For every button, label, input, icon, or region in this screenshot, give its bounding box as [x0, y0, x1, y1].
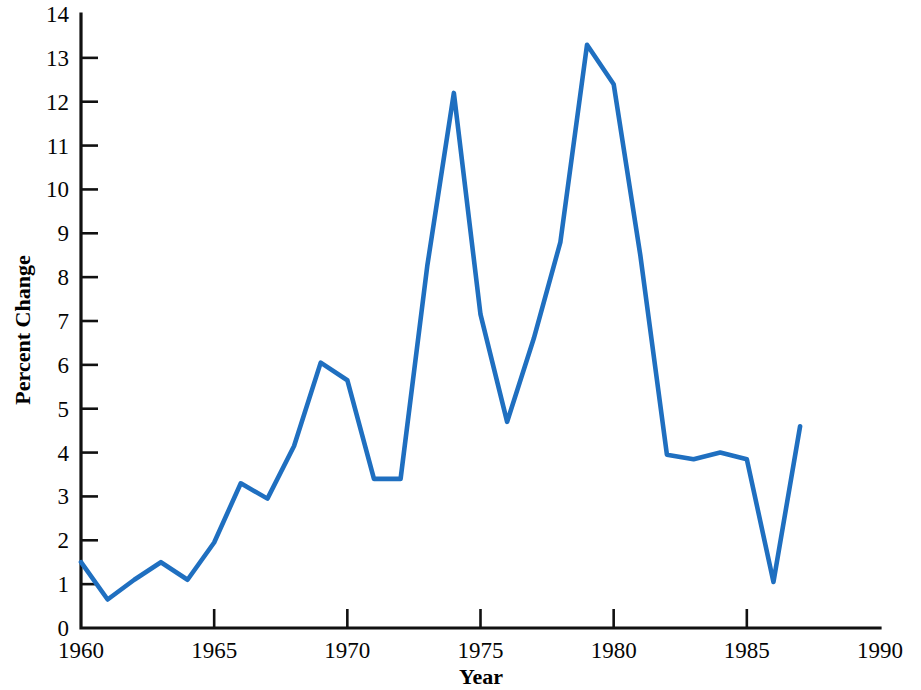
x-axis-tick-marks — [214, 609, 747, 628]
y-axis-tick-label: 5 — [58, 397, 70, 422]
x-axis-tick-labels: 1960196519701975198019851990 — [58, 638, 903, 663]
y-axis-tick-label: 1 — [58, 572, 70, 597]
y-axis-tick-label: 12 — [46, 90, 69, 115]
x-axis-tick-label: 1990 — [857, 638, 903, 663]
chart-figure: 01234567891011121314 1960196519701975198… — [0, 0, 921, 690]
y-axis-tick-label: 7 — [58, 309, 70, 334]
y-axis-tick-label: 8 — [58, 265, 70, 290]
y-axis-tick-labels: 01234567891011121314 — [46, 2, 70, 641]
y-axis-tick-label: 9 — [58, 221, 70, 246]
x-axis-tick-label: 1970 — [324, 638, 370, 663]
x-axis-tick-label: 1960 — [58, 638, 104, 663]
y-axis-tick-label: 14 — [46, 2, 70, 27]
y-axis-tick-label: 4 — [58, 441, 70, 466]
y-axis-tick-label: 13 — [46, 46, 69, 71]
x-axis-tick-label: 1965 — [191, 638, 237, 663]
x-axis-tick-label: 1985 — [724, 638, 770, 663]
x-axis-tick-label: 1975 — [458, 638, 504, 663]
y-axis-tick-label: 11 — [47, 134, 69, 159]
y-axis-title: Percent Change — [10, 255, 35, 405]
line-chart-svg: 01234567891011121314 1960196519701975198… — [0, 0, 921, 690]
y-axis-tick-label: 10 — [46, 177, 69, 202]
y-axis-tick-label: 6 — [58, 353, 70, 378]
y-axis-tick-label: 3 — [58, 484, 70, 509]
x-axis-tick-label: 1980 — [591, 638, 637, 663]
y-axis-tick-marks — [81, 58, 98, 584]
data-series-line — [81, 45, 800, 600]
y-axis-tick-label: 2 — [58, 528, 70, 553]
x-axis-title: Year — [459, 664, 503, 689]
